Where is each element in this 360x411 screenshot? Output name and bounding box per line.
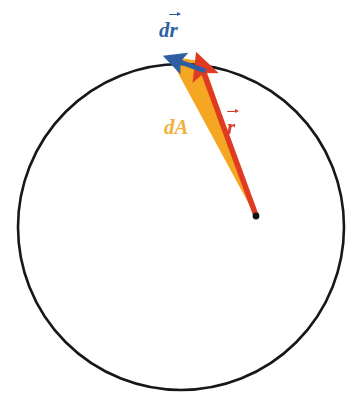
label-displacement-vector: dr bbox=[159, 20, 178, 41]
diagram-svg bbox=[0, 0, 360, 411]
label-differential-area: dA bbox=[164, 117, 189, 138]
vector-arrowhead-icon bbox=[235, 109, 239, 113]
label-dA-prefix: d bbox=[164, 115, 175, 139]
origin-point bbox=[253, 213, 260, 220]
label-r-vector-symbol: r bbox=[227, 117, 235, 138]
circle-outline bbox=[18, 64, 344, 390]
label-dr-symbol: r bbox=[170, 18, 178, 42]
figure-canvas: dr dA r bbox=[0, 0, 360, 411]
label-dr-vector-symbol: r bbox=[170, 20, 178, 41]
label-radius-vector: r bbox=[227, 117, 235, 138]
vector-arrowhead-icon bbox=[177, 12, 181, 16]
label-r-symbol: r bbox=[227, 115, 235, 139]
label-dr-prefix: d bbox=[159, 18, 170, 42]
label-dA-symbol: A bbox=[175, 115, 189, 139]
radius-vector-arrow bbox=[202, 68, 256, 216]
